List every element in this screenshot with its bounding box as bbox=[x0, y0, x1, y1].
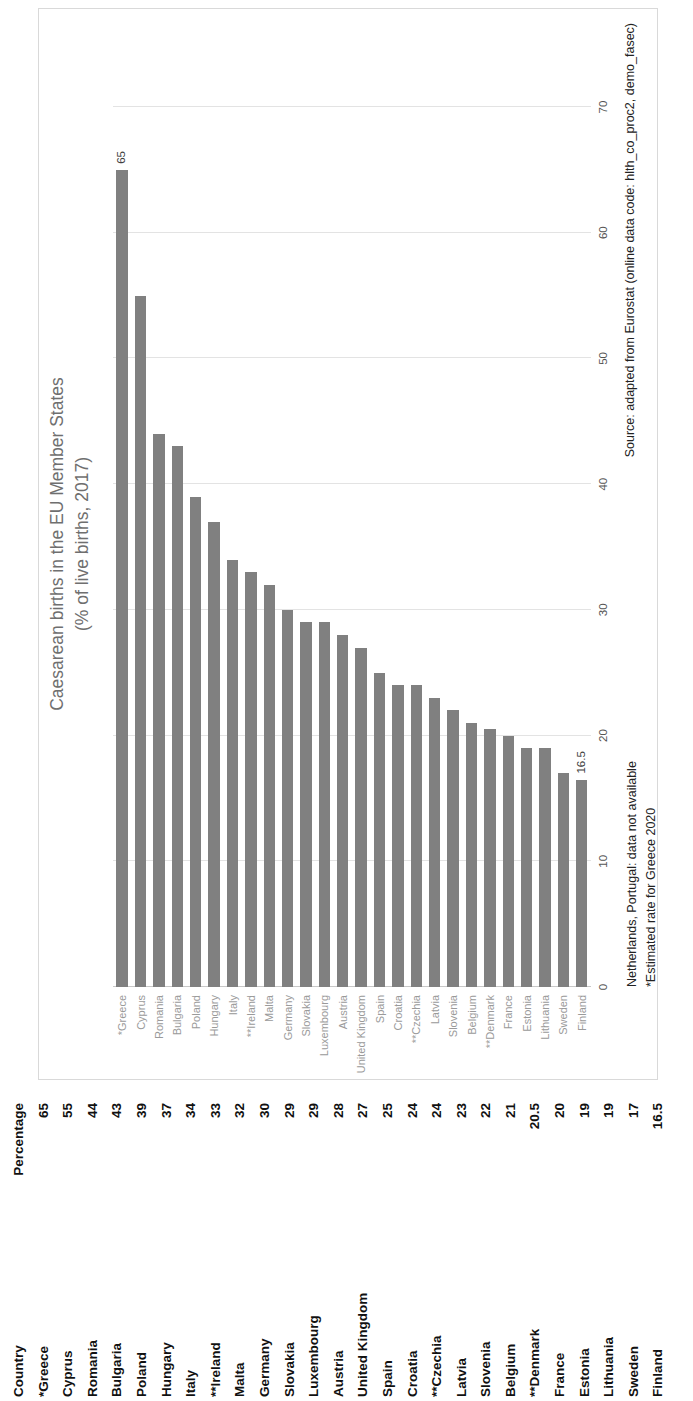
category-label: Hungary bbox=[205, 995, 223, 1037]
table-cell-country: **Denmark bbox=[523, 1215, 548, 1397]
table-row: **Denmark20.5 bbox=[523, 1097, 548, 1397]
table-cell-country: Bulgaria bbox=[105, 1215, 130, 1397]
table-cell-percentage: 23 bbox=[449, 1097, 474, 1215]
table-row: France20 bbox=[548, 1097, 573, 1397]
bar bbox=[466, 723, 477, 987]
bar bbox=[374, 673, 385, 987]
table-cell-percentage: 28 bbox=[326, 1097, 351, 1215]
table-row: Croatia24 bbox=[400, 1097, 425, 1397]
bar bbox=[172, 446, 183, 987]
table-row: Lithuania19 bbox=[597, 1097, 622, 1397]
value-axis-tick-label: 70 bbox=[597, 101, 609, 114]
table-row: Malta32 bbox=[228, 1097, 253, 1397]
category-label: Lithuania bbox=[536, 995, 554, 1040]
table-row: Spain25 bbox=[375, 1097, 400, 1397]
bar-row bbox=[319, 107, 330, 987]
table-cell-percentage: 17 bbox=[621, 1097, 646, 1215]
bar bbox=[190, 497, 201, 987]
category-label: United Kingdom bbox=[352, 995, 370, 1073]
table-cell-percentage: 24 bbox=[425, 1097, 450, 1215]
table-row: **Ireland33 bbox=[203, 1097, 228, 1397]
bar-row bbox=[521, 107, 532, 987]
bar bbox=[447, 710, 458, 987]
bar-row bbox=[392, 107, 403, 987]
chart-footnotes: Netherlands, Portugal: data not availabl… bbox=[623, 487, 661, 987]
chart-title-line2: (% of live births, 2017) bbox=[70, 9, 95, 1079]
table-cell-percentage: 20 bbox=[548, 1097, 573, 1215]
bar bbox=[300, 622, 311, 987]
bar-row bbox=[429, 107, 440, 987]
bar bbox=[411, 685, 422, 987]
table-row: Sweden17 bbox=[621, 1097, 646, 1397]
table-cell-country: *Greece bbox=[31, 1215, 56, 1397]
table-cell-percentage: 29 bbox=[277, 1097, 302, 1215]
table-cell-country: Estonia bbox=[572, 1215, 597, 1397]
chart-source: Source: adapted from Eurostat (online da… bbox=[623, 23, 637, 457]
bar-row bbox=[264, 107, 275, 987]
bar bbox=[135, 296, 146, 987]
data-table-container: Country Percentage *Greece65Cyprus55Roma… bbox=[0, 1092, 693, 1401]
bar-row bbox=[208, 107, 219, 987]
chart-container: Caesarean births in the EU Member States… bbox=[38, 8, 658, 1080]
footnote-line-1: Netherlands, Portugal: data not availabl… bbox=[623, 487, 642, 987]
category-label: Poland bbox=[187, 995, 205, 1029]
value-axis-tick-label: 50 bbox=[597, 352, 609, 365]
category-label: *Greece bbox=[113, 995, 131, 1035]
table-row: Belgium21 bbox=[498, 1097, 523, 1397]
table-cell-percentage: 22 bbox=[474, 1097, 499, 1215]
table-cell-country: Lithuania bbox=[597, 1215, 622, 1397]
bar-row bbox=[245, 107, 256, 987]
bar bbox=[208, 522, 219, 987]
bar bbox=[116, 170, 127, 987]
table-cell-country: Slovakia bbox=[277, 1215, 302, 1397]
bar-row bbox=[190, 107, 201, 987]
value-axis-tick-label: 20 bbox=[597, 729, 609, 742]
chart-rotated-canvas: Caesarean births in the EU Member States… bbox=[39, 9, 657, 1079]
category-label: Latvia bbox=[426, 995, 444, 1024]
table-cell-country: Austria bbox=[326, 1215, 351, 1397]
bar bbox=[539, 748, 550, 987]
bar-row bbox=[153, 107, 164, 987]
bar bbox=[503, 736, 514, 987]
table-cell-percentage: 37 bbox=[154, 1097, 179, 1215]
table-row: **Czechia24 bbox=[425, 1097, 450, 1397]
bar-row bbox=[503, 107, 514, 987]
table-cell-percentage: 32 bbox=[228, 1097, 253, 1215]
category-label: Slovakia bbox=[297, 995, 315, 1037]
table-cell-country: Italy bbox=[179, 1215, 204, 1397]
bar-series: 6516.5 bbox=[113, 107, 591, 987]
category-label: Belgium bbox=[463, 995, 481, 1035]
table-row: Germany30 bbox=[252, 1097, 277, 1397]
bar bbox=[264, 585, 275, 987]
table-cell-country: Cyprus bbox=[56, 1215, 81, 1397]
bar bbox=[153, 434, 164, 987]
table-cell-percentage: 39 bbox=[129, 1097, 154, 1215]
table-cell-percentage: 43 bbox=[105, 1097, 130, 1215]
table-cell-percentage: 29 bbox=[302, 1097, 327, 1215]
bar-row bbox=[558, 107, 569, 987]
category-label: Luxembourg bbox=[315, 995, 333, 1056]
value-axis-tick-label: 40 bbox=[597, 478, 609, 491]
bar-row bbox=[355, 107, 366, 987]
category-label: Malta bbox=[260, 995, 278, 1022]
footnote-line-2: *Estimated rate for Greece 2020 bbox=[642, 487, 661, 987]
table-cell-country: Romania bbox=[80, 1215, 105, 1397]
bar bbox=[227, 560, 238, 987]
table-row: Austria28 bbox=[326, 1097, 351, 1397]
table-cell-country: **Czechia bbox=[425, 1215, 450, 1397]
table-cell-country: Slovenia bbox=[474, 1215, 499, 1397]
bar-row bbox=[172, 107, 183, 987]
table-cell-country: Germany bbox=[252, 1215, 277, 1397]
bar bbox=[429, 698, 440, 987]
value-axis-tick-label: 30 bbox=[597, 603, 609, 616]
bar bbox=[355, 648, 366, 987]
table-cell-country: Hungary bbox=[154, 1215, 179, 1397]
table-cell-country: Sweden bbox=[621, 1215, 646, 1397]
bar bbox=[558, 773, 569, 987]
category-label: **Ireland bbox=[242, 995, 260, 1037]
table-row: Finland16.5 bbox=[646, 1097, 671, 1397]
value-axis-tick-label: 0 bbox=[597, 984, 609, 990]
table-row: Italy34 bbox=[179, 1097, 204, 1397]
category-label: Estonia bbox=[518, 995, 536, 1032]
bar-row bbox=[484, 107, 495, 987]
